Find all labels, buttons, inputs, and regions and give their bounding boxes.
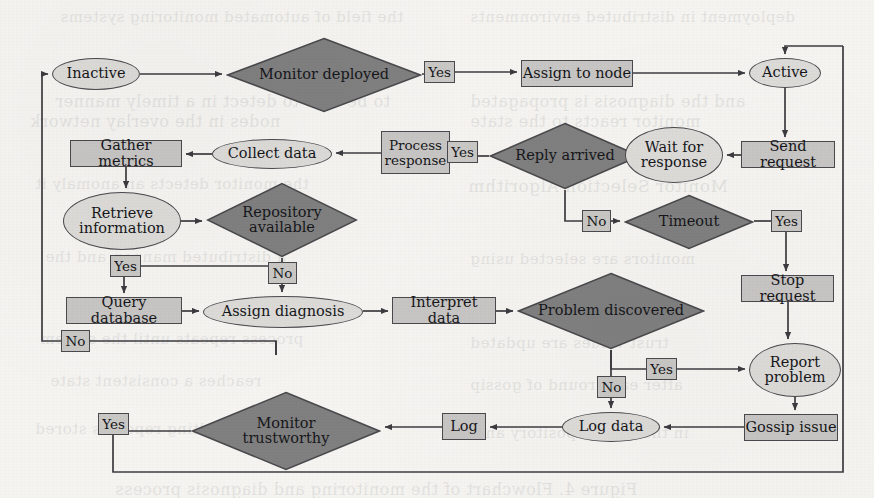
edge-return-rail-to-active xyxy=(785,46,843,54)
node-report-problem[interactable]: Reportproblem xyxy=(749,343,841,397)
node-label: Problem discovered xyxy=(517,272,705,350)
edge-no-to-inactive xyxy=(42,74,61,341)
node-timeout[interactable]: Timeout xyxy=(624,194,754,250)
node-repository-available[interactable]: Repositoryavailable xyxy=(206,182,358,258)
edge-label-no_problem_discovered: No xyxy=(597,376,626,398)
node-assign-diagnosis[interactable]: Assign diagnosis xyxy=(203,296,363,328)
node-inactive[interactable]: Inactive xyxy=(52,58,140,90)
edge-label-no_query_database: No xyxy=(61,330,90,352)
node-send-request[interactable]: Send request xyxy=(741,141,835,168)
node-label: Reply arrived xyxy=(489,122,641,190)
node-label: Repositoryavailable xyxy=(206,182,358,258)
edge-label-yes_repository: Yes xyxy=(110,255,141,277)
node-problem-discovered[interactable]: Problem discovered xyxy=(517,272,705,350)
node-collect-data[interactable]: Collect data xyxy=(212,139,332,169)
node-gather-metrics[interactable]: Gather metrics xyxy=(70,140,182,167)
node-stop-request[interactable]: Stop request xyxy=(741,275,834,302)
node-interpret-data[interactable]: Interpret data xyxy=(392,297,496,324)
node-process-response[interactable]: Processresponse xyxy=(381,131,450,174)
node-log[interactable]: Log xyxy=(442,413,486,440)
node-assign-to-node[interactable]: Assign to node xyxy=(521,60,633,87)
node-gossip-issue[interactable]: Gossip issue xyxy=(744,414,838,441)
node-monitor-deployed[interactable]: Monitor deployed xyxy=(226,37,422,113)
node-label: Monitor deployed xyxy=(226,37,422,113)
node-log-data[interactable]: Log data xyxy=(562,412,660,442)
node-label: Monitortrustworthy xyxy=(191,391,381,471)
node-label: Timeout xyxy=(624,194,754,250)
node-reply-arrived[interactable]: Reply arrived xyxy=(489,122,641,190)
edge-label-yes_problem_discovered: Yes xyxy=(646,358,677,380)
node-active[interactable]: Active xyxy=(749,58,821,88)
node-monitor-trustworthy[interactable]: Monitortrustworthy xyxy=(191,391,381,471)
node-wait-for-response[interactable]: Wait forresponse xyxy=(625,127,723,183)
edge-label-yes_monitor_trust: Yes xyxy=(98,413,129,435)
edge-label-yes_reply_arrived: Yes xyxy=(447,141,478,163)
edge-query-database-no-rail xyxy=(90,341,276,355)
edge-problem-discovered-yes xyxy=(611,350,646,369)
edge-label-no_reply_arrived: No xyxy=(582,210,611,232)
flowchart-canvas: the field of automated monitoring system… xyxy=(0,0,874,498)
node-query-database[interactable]: Query database xyxy=(66,297,182,324)
edge-reply-arrived-no xyxy=(565,190,582,221)
node-retrieve-information[interactable]: Retrieveinformation xyxy=(63,192,181,250)
edge-label-no_repository: No xyxy=(268,262,297,284)
edge-label-yes_timeout: Yes xyxy=(771,210,802,232)
edge-label-yes_monitor_deployed: Yes xyxy=(424,61,455,83)
